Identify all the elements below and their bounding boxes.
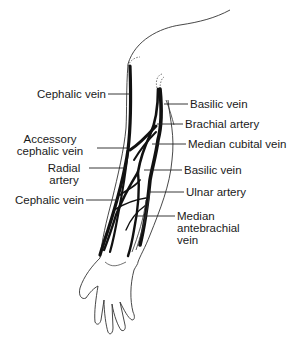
label-text: Accessory: [4, 133, 96, 145]
label-text: Ulnar artery: [186, 186, 246, 198]
label-cephalic-vein-lower: Cephalic vein: [0, 194, 84, 206]
label-radial-artery: Radial artery: [40, 162, 88, 186]
label-text: vein: [177, 234, 240, 246]
vessel-cut-ends: [128, 57, 164, 89]
label-text: Cephalic vein: [10, 88, 106, 100]
label-text: Median: [177, 210, 240, 222]
label-text: Cephalic vein: [0, 194, 84, 206]
label-cephalic-vein-upper: Cephalic vein: [10, 88, 106, 100]
vessels: [100, 66, 161, 256]
label-text: antebrachial: [177, 222, 240, 234]
label-accessory-cephalic-vein: Accessory cephalic vein: [4, 133, 96, 157]
label-basilic-vein-upper: Basilic vein: [190, 98, 248, 110]
label-text: Median cubital vein: [188, 138, 286, 150]
label-median-cubital-vein: Median cubital vein: [188, 138, 286, 150]
label-text: Basilic vein: [184, 164, 242, 176]
label-text: Brachial artery: [185, 118, 259, 130]
label-text: Radial: [40, 162, 88, 174]
forearm-vessel-diagram: Cephalic vein Accessory cephalic vein Ra…: [0, 0, 297, 338]
label-median-antebrachial-vein: Median antebrachial vein: [177, 210, 240, 246]
label-text: artery: [40, 174, 88, 186]
label-ulnar-artery: Ulnar artery: [186, 186, 246, 198]
label-text: cephalic vein: [4, 145, 96, 157]
label-text: Basilic vein: [190, 98, 248, 110]
label-brachial-artery: Brachial artery: [185, 118, 259, 130]
label-basilic-vein-lower: Basilic vein: [184, 164, 242, 176]
